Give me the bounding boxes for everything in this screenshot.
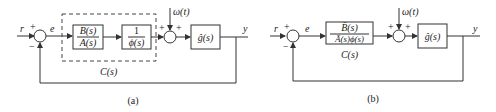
error-label-a: e [50,23,55,34]
sum1-minus-a: − [29,41,35,52]
plant-label-b: ĝ(s) [425,31,441,43]
summing-junction-1-a [34,30,46,42]
controller-label-b: C(s) [341,49,359,61]
plant-label-a: ĝ(s) [198,32,214,44]
block-diagrams: r + − e C(s) B(s) A(s) 1 ϕ(s) + + ω(t) ĝ… [0,0,496,112]
block1-numerator-a: B(s) [80,25,97,37]
sum1-minus-b: − [283,41,289,52]
input-label-a: r [20,23,24,34]
caption-b: (b) [367,93,379,105]
input-label-b: r [274,23,278,34]
controller-numerator-b: B̄(s) [341,22,358,34]
caption-a: (a) [127,95,138,107]
controller-label-a: C(s) [100,66,118,78]
sum2-plus-left-a: + [159,22,165,33]
sum2-plus-right-b: + [405,21,411,32]
block2-denominator-a: ϕ(s) [129,37,145,49]
block2-numerator-a: 1 [134,25,139,36]
diagram-a: r + − e C(s) B(s) A(s) 1 ϕ(s) + + ω(t) ĝ… [17,6,248,107]
summing-junction-2-a [164,31,176,43]
output-label-a: y [242,23,248,34]
error-label-b: e [305,23,310,34]
sum2-plus-left-b: + [388,21,394,32]
sum1-plus-a: + [30,21,36,32]
summing-junction-2-b [393,30,405,42]
controller-denominator-b: Ā(s)ϕ(s) [334,34,364,44]
sum1-plus-b: + [284,21,290,32]
sum2-plus-right-a: + [176,22,182,33]
summing-junction-1-b [287,30,299,42]
block1-denominator-a: A(s) [79,37,97,49]
diagram-b: r + − e B̄(s) Ā(s)ϕ(s) C(s) + + ω(t) ĝ(… [270,6,480,105]
disturbance-label-a: ω(t) [173,6,190,18]
output-label-b: y [472,23,478,34]
disturbance-label-b: ω(t) [402,6,419,18]
